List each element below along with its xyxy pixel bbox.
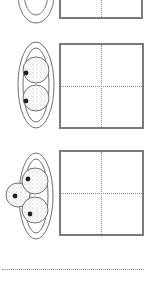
worksheet-row-2: [0, 38, 160, 133]
grid-horizontal-divider: [61, 193, 142, 194]
plate-with-three-balls-icon: [4, 151, 56, 241]
answer-grid-3: [59, 150, 144, 236]
plate-with-two-balls-icon: [16, 40, 56, 130]
plate-icon: [16, 0, 56, 25]
grid-horizontal-divider: [61, 86, 142, 87]
answer-grid-2: [59, 43, 144, 129]
worksheet-row-3: [0, 148, 160, 243]
grid-vertical-divider: [101, 0, 102, 17]
section-divider: [2, 269, 144, 270]
worksheet-row-1: [0, 0, 160, 25]
answer-grid-1: [59, 0, 143, 19]
